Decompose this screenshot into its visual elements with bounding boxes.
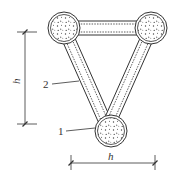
callout-1-label: 1 xyxy=(58,125,64,137)
diagram-canvas: 2 1 h h xyxy=(0,0,185,180)
strut-top xyxy=(70,21,144,35)
dimension-vertical xyxy=(17,30,37,127)
callout-2-label: 2 xyxy=(43,78,49,90)
dimension-vertical-label: h xyxy=(10,78,22,84)
strut-right xyxy=(102,36,153,128)
dimension-horizontal-label: h xyxy=(108,150,114,162)
column-top-right xyxy=(135,12,167,44)
column-top-left xyxy=(48,12,80,44)
callout-2: 2 xyxy=(43,78,79,90)
callout-1: 1 xyxy=(58,125,95,137)
column-bottom xyxy=(95,115,127,147)
